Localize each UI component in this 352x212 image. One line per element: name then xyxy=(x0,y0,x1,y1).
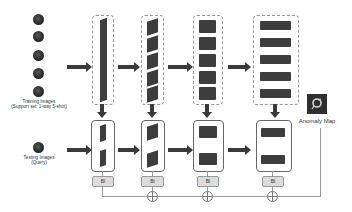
feature-block xyxy=(100,149,106,167)
arrow-q-stage2-to-stage3 xyxy=(168,148,188,152)
feature-block xyxy=(199,153,217,165)
sum-line-vertical xyxy=(102,187,103,196)
sum-node-1 xyxy=(147,191,158,202)
anomaly-map-image xyxy=(307,94,327,114)
training-image-2 xyxy=(33,31,44,42)
feature-block xyxy=(199,54,216,67)
feature-block xyxy=(147,123,158,141)
arrow-stage2-to-stage3 xyxy=(168,65,188,69)
line-to-anomaly-map xyxy=(320,128,321,197)
stage4-support-column xyxy=(253,15,299,105)
testing-label: Testing Images (Query) xyxy=(14,155,64,165)
feature-block xyxy=(199,126,217,138)
arrow-stage3-to-stage4 xyxy=(228,65,246,69)
testing-label-line2: (Query) xyxy=(14,160,64,165)
feature-block xyxy=(100,124,106,142)
stage1-support-column xyxy=(92,15,114,105)
training-image-5 xyxy=(33,86,44,97)
feature-block xyxy=(147,69,158,87)
training-image-4 xyxy=(33,68,44,79)
stage3-support-column xyxy=(193,15,223,105)
arrow-q-stage1-to-stage2 xyxy=(118,148,135,152)
sum-node-3 xyxy=(267,191,278,202)
arrow-query-to-stage1 xyxy=(67,148,87,152)
feature-block xyxy=(199,87,216,100)
anomaly-blob-icon xyxy=(307,94,327,114)
arrow-stage1-to-stage2 xyxy=(118,65,135,69)
stage4-query-column xyxy=(256,120,292,172)
feature-block xyxy=(260,38,291,47)
arrow-down-stage2 xyxy=(150,104,154,113)
feature-block xyxy=(261,155,285,164)
testing-image xyxy=(33,142,44,153)
arrow-down-stage3 xyxy=(205,104,209,113)
feature-block xyxy=(260,21,291,30)
feature-block xyxy=(100,18,107,103)
arrow-input-to-stage1 xyxy=(67,65,87,69)
feature-block xyxy=(147,35,158,53)
feature-block xyxy=(199,71,216,84)
arrow-down-stage1 xyxy=(100,104,104,113)
bl-block-1: Bl xyxy=(92,176,114,187)
arrow-down-stage4 xyxy=(273,104,277,113)
feature-block xyxy=(147,150,158,168)
training-label: Training Images (Support set: 1-way 5-sh… xyxy=(8,99,70,109)
arrow-q-stage3-to-stage4 xyxy=(228,148,246,152)
training-label-line2: (Support set: 1-way 5-shot) xyxy=(8,104,70,109)
stage1-query-column xyxy=(91,120,115,172)
feature-block xyxy=(147,18,158,36)
training-image-1 xyxy=(33,14,44,25)
feature-block xyxy=(260,55,291,64)
feature-block xyxy=(147,52,158,70)
feature-block xyxy=(260,72,291,81)
sum-node-2 xyxy=(202,191,213,202)
feature-block xyxy=(147,85,158,103)
stage2-query-column xyxy=(141,120,165,172)
feature-block xyxy=(261,128,285,137)
feature-block xyxy=(199,20,216,33)
feature-block xyxy=(260,89,291,98)
anomaly-map-label: Anomaly Map xyxy=(292,119,342,124)
stage3-query-column xyxy=(193,120,224,172)
feature-block xyxy=(199,37,216,50)
training-image-3 xyxy=(33,50,44,61)
stage2-support-column xyxy=(141,15,164,105)
bl-block-3: Bl xyxy=(197,176,219,187)
bl-block-2: Bl xyxy=(141,176,164,187)
bl-block-4: Bl xyxy=(262,176,284,187)
